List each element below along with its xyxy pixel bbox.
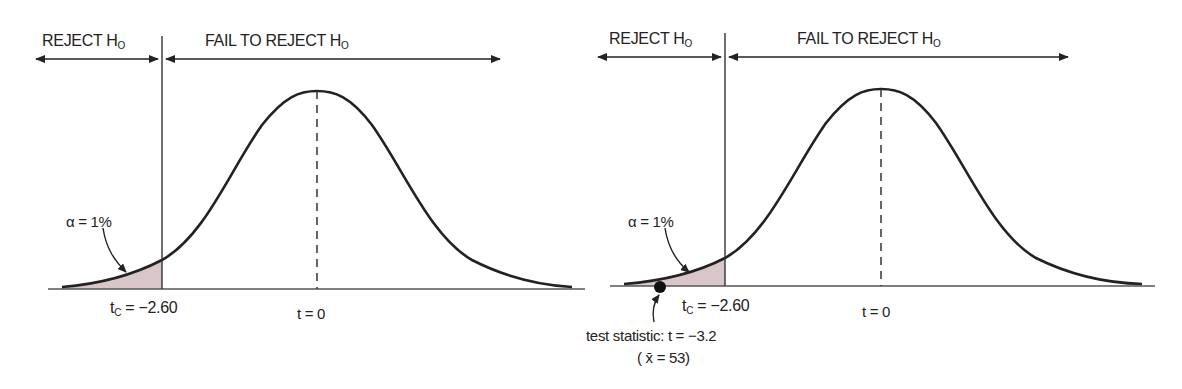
reject-text: REJECT H: [42, 32, 118, 49]
t-distribution-curve: [624, 89, 1142, 284]
left-panel: [36, 36, 585, 289]
reject-region-label: REJECT HO: [42, 32, 125, 51]
alpha-label: α = 1%: [628, 213, 674, 230]
fail-text: FAIL TO REJECT H: [205, 32, 341, 49]
right-panel: [598, 33, 1155, 322]
fail-to-reject-region-label: FAIL TO REJECT HO: [205, 32, 348, 51]
critical-value-label: tC = −2.60: [682, 297, 749, 316]
critical-value: = −2.60: [693, 297, 749, 314]
reject-text: REJECT H: [609, 30, 685, 47]
critical-value-label: tC = −2.60: [110, 299, 177, 318]
alpha-label: α = 1%: [66, 213, 112, 230]
test-statistic-label: test statistic: t = −3.2: [586, 327, 716, 344]
center-value-label: t = 0: [297, 305, 325, 322]
center-value-label: t = 0: [862, 303, 890, 320]
critical-value: = −2.60: [121, 299, 177, 316]
sample-mean-label: ( x̄ = 53): [637, 349, 690, 366]
test-statistic-point: [654, 281, 666, 293]
alpha-pointer-arrow: [665, 228, 689, 272]
fail-subscript: O: [933, 38, 940, 49]
fail-to-reject-region-label: FAIL TO REJECT HO: [797, 30, 940, 49]
test-statistic-pointer-arrow: [653, 295, 659, 322]
reject-subscript: O: [685, 38, 692, 49]
reject-region-label: REJECT HO: [609, 30, 692, 49]
fail-text: FAIL TO REJECT H: [797, 30, 933, 47]
reject-subscript: O: [118, 40, 125, 51]
alpha-pointer-arrow: [103, 228, 126, 272]
fail-subscript: O: [341, 40, 348, 51]
